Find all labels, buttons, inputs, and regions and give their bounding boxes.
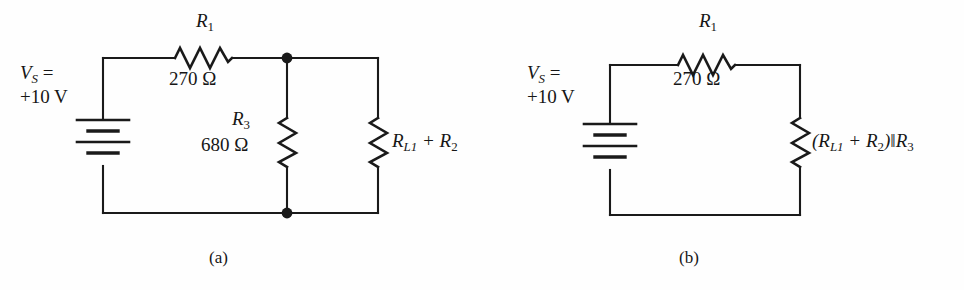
equivalent-resistance-label-b: (RL1 + R2)‖R3 — [812, 130, 914, 154]
r3-name-label-a: R3 — [232, 108, 250, 132]
source-equals-a: = — [38, 62, 53, 83]
source-name-line-b: VS = — [527, 62, 575, 86]
source-symbol-b: V — [527, 62, 539, 83]
junction-dot-bottom-a — [282, 208, 293, 219]
r1-letter-b: R — [699, 10, 711, 31]
r1-name-label-a: R1 — [196, 10, 214, 34]
rl1-r2-label-a: RL1 + R2 — [392, 130, 458, 154]
source-value-b: +10 V — [527, 86, 575, 108]
eq-rl1-subscript-b: L1 — [830, 139, 844, 154]
source-label-b: VS = +10 V — [527, 62, 575, 108]
r1-name-label-b: R1 — [699, 10, 717, 34]
source-value-a: +10 V — [20, 86, 68, 108]
r2-subscript-a: 2 — [451, 139, 457, 154]
source-equals-b: = — [545, 62, 560, 83]
r3-letter-a: R — [232, 108, 244, 129]
battery-b-icon — [584, 124, 636, 157]
resistor-rl1r2-a-icon — [370, 118, 387, 167]
r1-subscript-b: 1 — [711, 19, 717, 34]
eq-close-paren-b: )‖R — [884, 130, 907, 151]
resistor-r1-a-icon — [175, 48, 232, 68]
caption-a: (a) — [209, 248, 228, 268]
r1-letter-a: R — [196, 10, 208, 31]
source-name-line-a: VS = — [20, 62, 68, 86]
r3-subscript-a: 3 — [244, 117, 250, 132]
caption-b: (b) — [679, 248, 699, 268]
resistor-r3-a-icon — [279, 118, 296, 167]
r1-value-label-a: 270 Ω — [169, 68, 216, 90]
circuit-figure: VS = +10 V R1 270 Ω R3 680 Ω RL1 + R2 (a… — [0, 0, 964, 290]
source-label-a: VS = +10 V — [20, 62, 68, 108]
rl1-middle-a: + R — [417, 130, 451, 151]
rl1-subscript-a: L1 — [404, 139, 418, 154]
eq-open-paren-b: (R — [812, 130, 830, 151]
r1-value-label-b: 270 Ω — [673, 68, 720, 90]
rl1-letter-a: R — [392, 130, 404, 151]
r3-value-label-a: 680 Ω — [201, 134, 248, 156]
battery-a-icon — [77, 120, 129, 153]
r1-subscript-a: 1 — [208, 19, 214, 34]
eq-r3-subscript-b: 3 — [907, 139, 913, 154]
eq-middle-b: + R — [844, 130, 878, 151]
resistor-equivalent-b-icon — [792, 118, 809, 167]
source-symbol-a: V — [20, 62, 32, 83]
junction-dot-top-a — [282, 53, 293, 64]
